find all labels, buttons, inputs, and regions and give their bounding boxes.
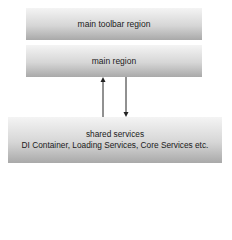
shared-services-box: shared services DI Container, Loading Se… (8, 117, 222, 163)
arrow-down-icon (124, 77, 129, 117)
shared-services-sublabel: DI Container, Loading Services, Core Ser… (22, 140, 209, 151)
shared-services-label: shared services (86, 129, 144, 140)
arrow-up-icon (101, 77, 106, 117)
